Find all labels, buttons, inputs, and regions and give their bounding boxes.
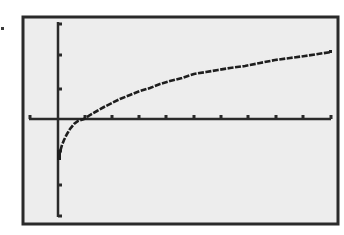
x-tick <box>111 115 114 119</box>
y-tick <box>58 88 62 91</box>
x-tick <box>275 115 278 119</box>
x-tick <box>165 115 168 119</box>
curve-start-marker <box>57 150 61 160</box>
x-tick <box>247 115 250 119</box>
y-tick <box>58 54 62 57</box>
screen-frame <box>23 17 338 224</box>
x-tick <box>302 115 305 119</box>
y-tick <box>58 23 62 26</box>
x-tick <box>220 115 223 119</box>
x-tick <box>330 115 333 119</box>
x-tick <box>138 115 141 119</box>
graph-screen <box>0 0 344 235</box>
calculator-graph-view <box>0 0 344 235</box>
y-tick <box>58 215 62 218</box>
x-tick <box>29 115 32 119</box>
curve-end-marker <box>329 50 332 53</box>
y-tick <box>58 184 62 187</box>
x-tick <box>193 115 196 119</box>
